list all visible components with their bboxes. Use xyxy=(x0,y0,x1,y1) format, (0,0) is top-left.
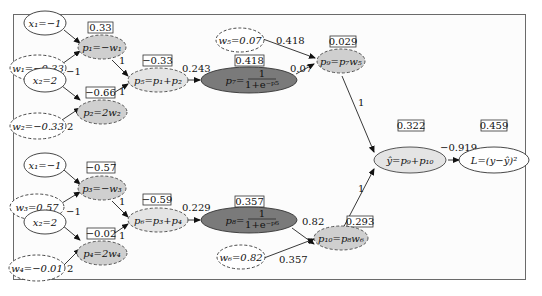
p4-value: −0.02 xyxy=(86,228,117,239)
svg-text:ŷ=p₉+p₁₀: ŷ=p₉+p₁₀ xyxy=(385,155,433,166)
edge-x2b-p4 xyxy=(62,225,80,240)
p3-value: −0.57 xyxy=(86,162,117,173)
edge-label-w3-p3: −1 xyxy=(66,206,81,217)
edge-x2-p2 xyxy=(62,86,80,100)
p6-value: −0.59 xyxy=(142,194,173,205)
edge-label-p4-p6: 1 xyxy=(119,230,125,241)
svg-text:p₆=p₃+p₄: p₆=p₃+p₄ xyxy=(134,215,182,226)
svg-text:1+e⁻ᵖ⁶: 1+e⁻ᵖ⁶ xyxy=(245,219,279,230)
svg-text:p₃=−w₃: p₃=−w₃ xyxy=(82,183,122,194)
edge-label-w6-p10: 0.357 xyxy=(279,254,308,265)
edge-w3-p3 xyxy=(62,192,80,203)
svg-text:p₉=p₇w₅: p₉=p₇w₅ xyxy=(320,56,362,67)
svg-text:x₂=2: x₂=2 xyxy=(33,75,57,86)
node-p7-sigmoid: 0.418 p₇= 1 1+e⁻ᵖ⁵ xyxy=(201,55,297,93)
node-p8-sigmoid: 0.357 p₈= 1 1+e⁻ᵖ⁶ xyxy=(201,196,297,233)
node-x1-bottom: x₁=−1 xyxy=(24,153,66,177)
node-yhat: 0.322 ŷ=p₉+p₁₀ xyxy=(374,120,446,173)
node-p5: −0.33 p₅=p₁+p₂ xyxy=(128,55,188,92)
node-x2-bottom: x₂=2 xyxy=(24,210,66,234)
svg-text:p₈=: p₈= xyxy=(226,215,245,226)
edge-label-p6-p8: 0.229 xyxy=(182,202,211,213)
svg-text:p₂=2w₂: p₂=2w₂ xyxy=(83,107,121,118)
edge-label-w2-p2: 2 xyxy=(67,121,73,132)
node-w5: w₅=0.07 xyxy=(216,28,264,52)
svg-text:x₁=−1: x₁=−1 xyxy=(29,18,62,29)
edge-x1-p1 xyxy=(64,30,80,43)
p9-value: 0.029 xyxy=(329,36,358,47)
edge-label-p3-p6: 1 xyxy=(119,196,125,207)
svg-text:1+e⁻ᵖ⁵: 1+e⁻ᵖ⁵ xyxy=(245,79,279,90)
edge-label-p2-p5: 1 xyxy=(119,86,125,97)
p5-value: −0.33 xyxy=(142,55,173,66)
edge-label-p5-p7: 0.243 xyxy=(182,63,211,74)
edge-label-p9-yhat: 1 xyxy=(358,97,364,108)
svg-text:L=(y−ŷ)²: L=(y−ŷ)² xyxy=(470,155,518,166)
node-x1-top: x₁=−1 xyxy=(24,11,66,35)
svg-text:p₇=: p₇= xyxy=(226,75,245,86)
node-p9: 0.029 p₉=p₇w₅ xyxy=(317,36,365,73)
loss-value: 0.459 xyxy=(480,120,509,131)
edge-x1b-p3 xyxy=(64,170,80,184)
svg-text:w₅=0.07: w₅=0.07 xyxy=(218,35,262,46)
svg-text:x₂=2: x₂=2 xyxy=(33,217,57,228)
node-p6: −0.59 p₆=p₃+p₄ xyxy=(128,194,188,232)
edge-label-w5-p9: 0.418 xyxy=(276,35,305,46)
p7-value: 0.418 xyxy=(235,55,264,66)
svg-text:1: 1 xyxy=(259,208,265,219)
svg-text:x₁=−1: x₁=−1 xyxy=(29,160,62,171)
edge-label-w1-p1: −1 xyxy=(66,66,81,77)
edge-label-p8-p10: 0.82 xyxy=(302,216,324,227)
edge-label-p10-yhat: 1 xyxy=(358,183,364,194)
node-x2-top: x₂=2 xyxy=(24,68,66,92)
svg-text:p₁=−w₁: p₁=−w₁ xyxy=(82,42,122,53)
edge-label-p7-p9: 0.07 xyxy=(290,63,312,74)
svg-text:w₂=−0.33: w₂=−0.33 xyxy=(12,121,64,132)
computational-graph: −1 1 1 2 0.243 0.418 0.07 1 −0.919 −1 1 … xyxy=(0,0,542,296)
p1-value: 0.33 xyxy=(89,22,111,33)
edge-label-p1-p5: 1 xyxy=(119,55,125,66)
edge-w1-p1 xyxy=(62,51,80,64)
yhat-value: 0.322 xyxy=(397,120,426,131)
svg-text:p₅=p₁+p₂: p₅=p₁+p₂ xyxy=(134,75,182,86)
svg-text:p₁₀=p₈w₆: p₁₀=p₈w₆ xyxy=(318,233,364,244)
svg-text:1: 1 xyxy=(259,68,265,79)
svg-text:w₄=−0.01: w₄=−0.01 xyxy=(11,263,63,274)
svg-text:w₆=0.82: w₆=0.82 xyxy=(219,252,262,263)
node-w6: w₆=0.82 xyxy=(217,245,265,269)
node-p3: −0.57 p₃=−w₃ xyxy=(78,162,126,200)
edge-p9-yhat xyxy=(342,76,374,152)
p2-value: −0.66 xyxy=(85,87,116,98)
node-p1: 0.33 p₁=−w₁ xyxy=(78,22,126,59)
svg-text:p₄=2w₄: p₄=2w₄ xyxy=(83,248,121,259)
node-w4: w₄=−0.01 xyxy=(9,255,65,281)
node-w2: w₂=−0.33 xyxy=(10,113,66,139)
p8-value: 0.357 xyxy=(235,196,264,207)
edge-label-w4-p4: 2 xyxy=(67,263,73,274)
p10-value: 0.293 xyxy=(346,216,375,227)
edge-p8-p10 xyxy=(292,228,314,244)
